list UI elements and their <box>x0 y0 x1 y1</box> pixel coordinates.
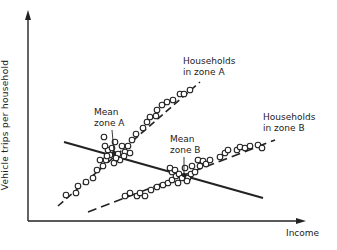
zone-a-household-point <box>75 183 81 189</box>
zone-a-household-point <box>140 125 146 131</box>
zone-a-household-point <box>170 97 176 103</box>
zone-a-household-point <box>97 157 103 163</box>
zone-a-household-point <box>147 114 153 120</box>
zone-a-household-point <box>154 107 160 113</box>
zone-b-household-point <box>142 193 148 199</box>
households-zone-b-line2: in zone B <box>263 123 315 134</box>
households-zone-a-label: Households in zone A <box>183 56 235 78</box>
zone-b-household-point <box>182 165 188 171</box>
households-zone-b-label: Households in zone B <box>263 112 315 134</box>
zone-b-household-point <box>175 180 181 186</box>
zone-a-household-point <box>63 192 69 198</box>
zone-a-household-point <box>153 113 159 119</box>
scatter-points <box>63 87 265 199</box>
zone-a-household-point <box>101 134 107 140</box>
households-zone-a-line2: in zone A <box>183 67 235 78</box>
axes <box>28 16 300 221</box>
y-axis-label: Vehicle trips per household <box>0 25 10 225</box>
zone-b-household-point <box>225 147 231 153</box>
households-zone-b-line1: Households <box>263 112 315 123</box>
zone-b-household-point <box>184 178 190 184</box>
zone-b-household-point <box>127 190 133 196</box>
x-axis-label: Income <box>286 228 319 238</box>
zone-a-household-point <box>181 91 187 97</box>
zone-a-household-point <box>90 175 96 181</box>
zone-a-household-point <box>129 137 135 143</box>
zone-b-household-point <box>207 157 213 163</box>
zone-a-household-point <box>104 153 110 159</box>
mean-zone-b-line2: zone B <box>170 145 201 156</box>
mean-zone-a-label: Mean zone A <box>94 107 125 129</box>
zone-b-household-point <box>148 187 154 193</box>
zone-a-household-point <box>83 179 89 185</box>
zone-a-household-point <box>113 155 119 161</box>
zone-a-household-point <box>100 163 106 169</box>
zone-a-household-point <box>102 143 108 149</box>
zone-a-household-point <box>119 143 125 149</box>
zone-b-household-point <box>189 163 195 169</box>
zone-b-household-point <box>217 154 223 160</box>
zone-a-household-point <box>94 167 100 173</box>
zone-b-household-point <box>247 143 253 149</box>
mean-zone-a-line2: zone A <box>94 118 125 129</box>
zone-b-household-point <box>154 184 160 190</box>
zone-a-household-point <box>127 150 133 156</box>
mean-zone-b-label: Mean zone B <box>170 134 201 156</box>
households-zone-a-line1: Households <box>183 56 235 67</box>
zone-a-household-point <box>133 131 139 137</box>
zone-a-household-point <box>164 99 170 105</box>
zone-a-household-point <box>73 190 79 196</box>
zone-a-household-point <box>121 153 127 159</box>
zone-a-household-point <box>187 87 193 93</box>
mean-zone-b-line1: Mean <box>170 134 201 145</box>
mean-zone-a-line1: Mean <box>94 107 125 118</box>
zone-b-household-point <box>259 145 265 151</box>
y-axis-arrow-icon <box>25 10 31 20</box>
zone-b-household-point <box>192 169 198 175</box>
x-axis-arrow-icon <box>296 218 306 224</box>
zone-a-household-point <box>125 143 131 149</box>
